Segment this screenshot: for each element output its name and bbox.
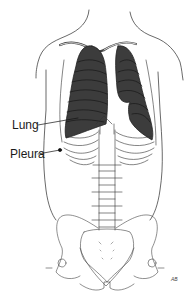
lungs — [60, 46, 156, 145]
pleura-label: Pleura — [10, 148, 45, 160]
artist-signature: AB — [171, 276, 178, 282]
body-outline — [36, 10, 183, 220]
pelvis — [46, 215, 164, 290]
lung-label: Lung — [12, 119, 39, 131]
spine — [92, 130, 122, 230]
left-lung — [116, 46, 153, 140]
